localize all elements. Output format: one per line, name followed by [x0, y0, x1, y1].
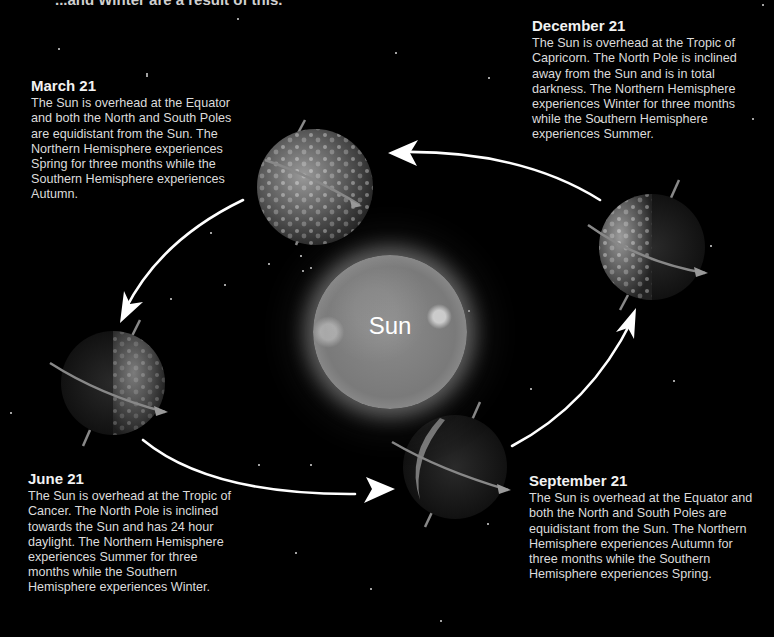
- sun: Sun: [313, 255, 467, 409]
- earth-september: [392, 402, 511, 527]
- earth-axis: [472, 402, 480, 420]
- caption-march-text: The Sun is overhead at the Equator and b…: [31, 96, 246, 202]
- orbit-arrow-march-to-june: [125, 200, 243, 310]
- sun-label: Sun: [313, 312, 467, 340]
- earth-axis: [83, 430, 90, 446]
- caption-december-text: The Sun is overhead at the Tropic of Cap…: [532, 36, 762, 142]
- earth-december: [588, 180, 708, 310]
- caption-december: December 21 The Sun is overhead at the T…: [532, 18, 762, 143]
- orbit-arrow-december-to-march: [400, 152, 600, 200]
- earth-march: [257, 120, 373, 245]
- orbit-arrow-september-to-december: [512, 320, 632, 446]
- arrowhead-icon: [364, 477, 395, 503]
- caption-june-date: June 21: [28, 471, 233, 486]
- earth-axis: [670, 180, 679, 200]
- caption-june: June 21 The Sun is overhead at the Tropi…: [28, 471, 233, 596]
- caption-march: March 21 The Sun is overhead at the Equa…: [31, 78, 246, 203]
- caption-september: September 21 The Sun is overhead at the …: [529, 473, 764, 582]
- caption-september-text: The Sun is overhead at the Equator and b…: [529, 491, 764, 582]
- arrowhead-icon: [616, 308, 636, 339]
- earth-axis: [620, 295, 628, 310]
- caption-june-text: The Sun is overhead at the Tropic of Can…: [28, 489, 233, 595]
- earth-june: [50, 320, 168, 446]
- caption-march-date: March 21: [31, 78, 246, 93]
- caption-september-date: September 21: [529, 473, 764, 488]
- caption-december-date: December 21: [532, 18, 762, 33]
